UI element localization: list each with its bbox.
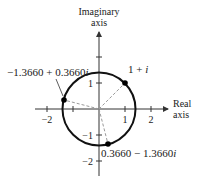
complex-plane-diagram: −2 1 2 1 −1 −2 Imaginary axis Real axis … <box>0 0 204 180</box>
point-0.366-minus-1.366i <box>105 141 111 147</box>
y-tick-label-neg1: −1 <box>82 130 93 141</box>
label-1-plus-i: 1 + i <box>128 63 148 75</box>
imaginary-axis-label-2: axis <box>91 17 107 28</box>
leader-line <box>56 79 63 96</box>
y-tick-label-neg2: −2 <box>82 156 93 167</box>
point-neg1.366-plus-0.366i <box>61 97 67 103</box>
point-1-plus-i <box>122 80 128 86</box>
imaginary-axis-label: Imaginary <box>78 6 119 17</box>
real-axis-label-2: axis <box>173 109 189 120</box>
label-0.366-minus-1.366i: 0.3660 − 1.3660i <box>101 147 176 159</box>
x-tick-label-1: 1 <box>123 114 128 125</box>
label-neg1.366-plus-0.366i: −1.3660 + 0.3660i <box>7 66 88 78</box>
y-tick-label-1: 1 <box>88 78 93 89</box>
x-tick-label-neg2: −2 <box>42 114 53 125</box>
x-tick-label-2: 2 <box>149 114 154 125</box>
real-axis-label: Real <box>173 98 192 109</box>
